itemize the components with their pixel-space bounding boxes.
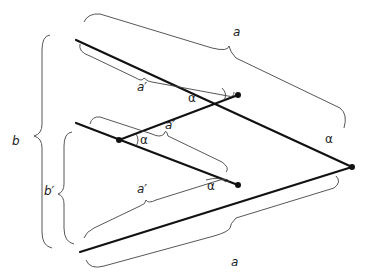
label-alpha-apex: α bbox=[325, 133, 333, 145]
apex-vertex-dot bbox=[349, 164, 355, 170]
diagram-canvas bbox=[0, 0, 367, 278]
label-alpha-left: α bbox=[140, 134, 148, 146]
label-a-top: a bbox=[233, 26, 240, 38]
label-a-prime-lower: a′ bbox=[137, 183, 147, 195]
lower-arm-line bbox=[80, 167, 352, 252]
nested-angle-diagram: a a a′ a′ a′ b b′ α α α α bbox=[0, 0, 367, 278]
alpha-arc-upper bbox=[222, 88, 226, 100]
label-a-prime-middle: a′ bbox=[165, 119, 175, 131]
lower-vertex-dot bbox=[235, 182, 241, 188]
label-b: b bbox=[12, 135, 20, 147]
brace-b-prime bbox=[58, 132, 74, 244]
left-vertex-dot bbox=[116, 137, 122, 143]
label-b-prime: b′ bbox=[44, 185, 54, 197]
label-alpha-lower: α bbox=[207, 180, 215, 192]
brace-a-top bbox=[84, 14, 345, 128]
alpha-arc-left bbox=[136, 134, 138, 146]
label-alpha-upper: α bbox=[188, 92, 196, 104]
brace-b bbox=[34, 35, 52, 248]
label-a-prime-upper: a′ bbox=[137, 81, 147, 93]
upper-vertex-dot bbox=[235, 92, 241, 98]
label-a-bottom: a bbox=[231, 256, 238, 268]
middle-upper-branch-line bbox=[119, 95, 238, 140]
middle-lower-branch-line bbox=[76, 123, 238, 185]
